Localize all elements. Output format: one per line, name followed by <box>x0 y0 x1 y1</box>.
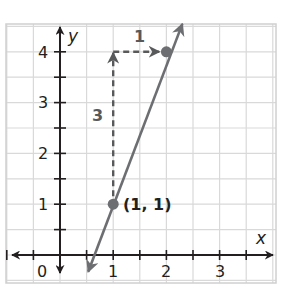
slope-annotations <box>113 52 159 196</box>
point-marker <box>161 46 172 57</box>
graphed-line <box>88 24 182 272</box>
y-axis-label: y <box>67 26 79 46</box>
rise-label: 3 <box>92 106 103 125</box>
point-label-1-1: (1, 1) <box>123 195 172 214</box>
x-axis-label: x <box>255 228 267 248</box>
line-series <box>88 24 182 272</box>
y-tick-label-4: 4 <box>38 43 48 62</box>
run-label: 1 <box>134 27 145 46</box>
y-tick-label-3: 3 <box>38 93 48 112</box>
y-tick-label-1: 1 <box>38 195 48 214</box>
point-marker <box>108 199 119 210</box>
coordinate-plane-chart: y x 0 1 2 3 1 2 3 4 3 1 (1, 1) <box>0 0 290 301</box>
x-tick-label-2: 2 <box>161 262 171 281</box>
y-tick-label-2: 2 <box>38 144 48 163</box>
x-tick-label-3: 3 <box>215 262 225 281</box>
plot-area: y x 0 1 2 3 1 2 3 4 3 1 (1, 1) <box>0 0 290 301</box>
origin-label: 0 <box>37 262 47 281</box>
x-tick-label-1: 1 <box>108 262 118 281</box>
